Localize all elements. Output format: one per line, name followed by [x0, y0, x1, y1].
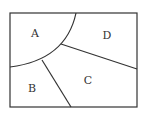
boundary-b-c	[42, 60, 71, 107]
region-diagram: A B C D	[0, 0, 145, 115]
region-label-b: B	[28, 82, 36, 95]
boundary-d-c	[61, 44, 137, 69]
region-label-a: A	[30, 27, 40, 40]
region-label-c: C	[84, 74, 92, 87]
region-label-d: D	[103, 29, 112, 42]
arc-boundary	[10, 13, 76, 67]
